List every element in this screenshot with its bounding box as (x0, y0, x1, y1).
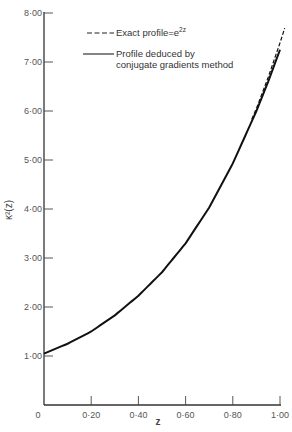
x-tick-label: 0·40 (129, 410, 147, 420)
x-tick-label: 0·20 (82, 410, 100, 420)
y-tick-label: 8·00 (24, 8, 42, 18)
x-axis-label: z (156, 416, 161, 427)
x-tick-label: 0·80 (224, 410, 242, 420)
y-tick-label: 6·00 (24, 106, 42, 116)
axes (44, 12, 281, 405)
deduced-profile-line (44, 50, 280, 354)
legend-exact-label: Exact profile=e2z (116, 26, 186, 38)
x-ticks: 00·200·400·600·801·00 (35, 396, 289, 420)
x-tick-label: 0 (35, 410, 40, 420)
y-tick-label: 5·00 (24, 155, 42, 165)
exact-profile-line (252, 28, 285, 119)
y-tick-label: 2·00 (24, 302, 42, 312)
x-tick-label: 0·60 (177, 410, 195, 420)
y-tick-label: 7·00 (24, 57, 42, 67)
legend: Exact profile=e2z Profile deduced by con… (83, 26, 233, 70)
y-tick-label: 3·00 (24, 253, 42, 263)
legend-deduced-label-line1: Profile deduced by (116, 48, 195, 59)
y-ticks: 1·002·003·004·005·006·007·008·00 (24, 8, 53, 361)
y-tick-label: 4·00 (24, 204, 42, 214)
legend-deduced-label-line2: conjugate gradients method (116, 59, 233, 70)
y-tick-label: 1·00 (24, 351, 42, 361)
x-tick-label: 1·00 (271, 410, 289, 420)
chart: 1·002·003·004·005·006·007·008·00 00·200·… (0, 0, 292, 432)
series-group (44, 28, 285, 353)
y-axis-label: κ²(z) (3, 200, 14, 220)
